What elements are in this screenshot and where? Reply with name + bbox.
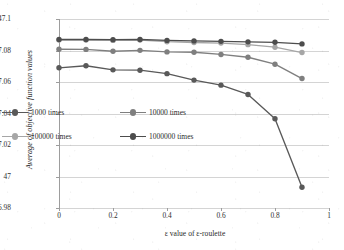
data-point — [299, 41, 304, 46]
legend-marker-icon — [2, 132, 28, 141]
gridline — [59, 208, 329, 209]
legend-item-1000-times[interactable]: 1000 times — [2, 108, 120, 117]
legend-label: 1000 times — [31, 108, 64, 117]
data-point — [110, 49, 115, 54]
legend-item-1000000-times[interactable]: 1000000 times — [120, 132, 234, 141]
data-point — [56, 47, 61, 52]
data-point — [245, 55, 250, 60]
legend-label: 1000000 times — [149, 132, 193, 141]
data-point — [218, 82, 223, 87]
x-axis-tick-label: 0 — [44, 211, 74, 220]
data-point — [299, 185, 304, 190]
legend-marker-icon — [120, 108, 146, 117]
data-point — [83, 63, 88, 68]
data-point — [272, 62, 277, 67]
legend-label: 10000 times — [149, 108, 186, 117]
data-point — [218, 39, 223, 44]
legend-item-100000-times[interactable]: 100000 times — [2, 132, 120, 141]
data-point — [218, 52, 223, 57]
y-axis-tick-label: 47.02 — [0, 140, 11, 149]
legend-marker-icon — [2, 108, 28, 117]
data-point — [272, 40, 277, 45]
data-point — [272, 44, 277, 49]
x-axis-tick-label: 0.4 — [152, 211, 182, 220]
data-point — [137, 67, 142, 72]
x-axis-tick-label: 0.6 — [206, 211, 236, 220]
legend-label: 100000 times — [31, 132, 72, 141]
y-axis-tick-label: 47.08 — [0, 46, 11, 55]
data-point — [137, 37, 142, 42]
x-axis-tick-label: 1 — [314, 211, 344, 220]
data-point — [191, 38, 196, 43]
x-axis-tick-label: 0.2 — [98, 211, 128, 220]
data-point — [191, 50, 196, 55]
data-point — [56, 65, 61, 70]
data-point — [299, 50, 304, 55]
data-point — [83, 47, 88, 52]
data-point — [245, 39, 250, 44]
y-axis-tick-label: 47.1 — [0, 14, 11, 23]
y-axis-tick-label: 46.98 — [0, 203, 11, 212]
series-10000-times — [56, 47, 304, 82]
data-point — [245, 92, 250, 97]
data-point — [164, 38, 169, 43]
data-point — [164, 71, 169, 76]
data-point — [110, 37, 115, 42]
data-point — [299, 76, 304, 81]
x-axis-tick-label: 0.8 — [260, 211, 290, 220]
data-point — [83, 37, 88, 42]
legend-marker-icon — [120, 132, 146, 141]
series-line — [59, 49, 302, 78]
x-axis-title: ε value of ε-roulette — [60, 229, 330, 238]
data-point — [164, 49, 169, 54]
y-axis-tick-label: 47.06 — [0, 77, 11, 86]
data-point — [272, 116, 277, 121]
chart-figure: Average of objective function values 46.… — [0, 0, 344, 250]
data-point — [137, 48, 142, 53]
data-point — [191, 77, 196, 82]
legend-item-10000-times[interactable]: 10000 times — [120, 108, 234, 117]
data-point — [56, 37, 61, 42]
y-axis-tick-label: 47 — [0, 172, 11, 181]
data-point — [110, 67, 115, 72]
chart-legend: 1000 times10000 times100000 times1000000… — [2, 108, 234, 141]
